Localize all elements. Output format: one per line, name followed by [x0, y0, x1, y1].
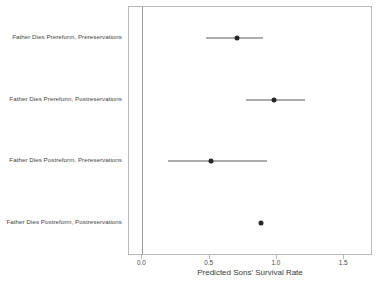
plot-frame — [128, 6, 372, 255]
x-tick-label-1: 0.5 — [204, 259, 213, 266]
category-label-1: Father Dies Prereform, Postreservations — [9, 95, 122, 103]
reference-line-zero — [142, 7, 143, 254]
confidence-interval-2 — [168, 161, 267, 162]
x-tick-label-2: 1.0 — [271, 259, 280, 266]
x-tick-label-3: 1.5 — [339, 259, 348, 266]
estimate-point-0[interactable] — [234, 35, 239, 40]
category-label-3: Father Dies Postreform, Postreservations — [7, 218, 122, 226]
estimate-point-2[interactable] — [209, 159, 214, 164]
estimate-point-1[interactable] — [272, 97, 277, 102]
coefficient-plot-figure: Father Dies Prereform, Prereservations F… — [0, 0, 380, 281]
x-axis-title: Predicted Sons' Survival Rate — [128, 268, 372, 277]
plot-area — [129, 7, 371, 254]
x-tick-label-0: 0.0 — [137, 259, 146, 266]
category-label-2: Father Dies Postreform, Prereservations — [9, 156, 122, 164]
category-label-0: Father Dies Prereform, Prereservations — [12, 33, 122, 41]
estimate-point-3[interactable] — [258, 221, 263, 226]
